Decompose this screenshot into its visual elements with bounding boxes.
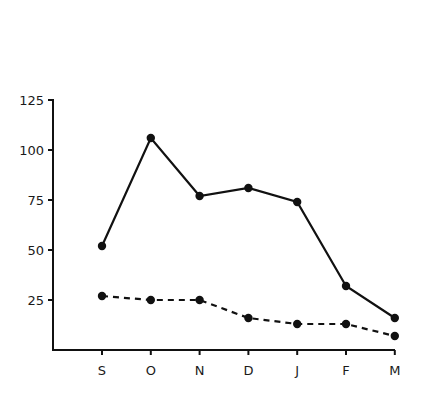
data-point-marker: [195, 296, 203, 304]
x-tick-label: D: [243, 363, 253, 378]
data-point-marker: [98, 292, 106, 300]
y-tick-label: 50: [27, 243, 44, 258]
series-dashed: [98, 292, 399, 340]
y-tick-label: 100: [19, 143, 44, 158]
x-tick-label: J: [294, 363, 299, 378]
x-tick-label: N: [195, 363, 205, 378]
data-point-marker: [293, 198, 301, 206]
line-chart: 255075100125 SONDJFM: [0, 0, 430, 399]
series-solid: [98, 134, 399, 322]
data-point-marker: [147, 134, 155, 142]
x-axis: SONDJFM: [98, 350, 401, 378]
data-point-marker: [342, 320, 350, 328]
x-tick-label: M: [389, 363, 400, 378]
data-point-marker: [391, 332, 399, 340]
y-axis: 255075100125: [19, 93, 395, 350]
y-tick-label: 25: [27, 293, 44, 308]
data-point-marker: [293, 320, 301, 328]
data-point-marker: [244, 314, 252, 322]
data-point-marker: [342, 282, 350, 290]
data-point-marker: [195, 192, 203, 200]
data-point-marker: [98, 242, 106, 250]
data-point-marker: [391, 314, 399, 322]
x-tick-label: F: [342, 363, 349, 378]
y-tick-label: 125: [19, 93, 44, 108]
axis-lines: [53, 99, 395, 350]
x-tick-label: S: [98, 363, 106, 378]
y-tick-label: 75: [27, 193, 44, 208]
data-point-marker: [244, 184, 252, 192]
series-line-solid: [102, 138, 395, 318]
series-layer: [98, 134, 399, 340]
data-point-marker: [147, 296, 155, 304]
x-tick-label: O: [146, 363, 156, 378]
